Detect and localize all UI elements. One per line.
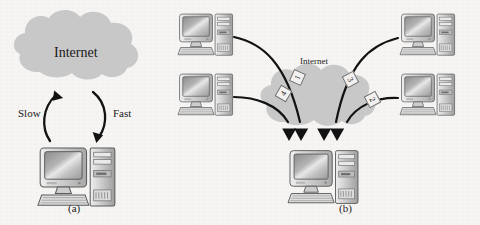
slow-arrow [44,95,56,141]
panel-b-group [178,14,455,203]
computer-a [38,148,115,206]
internet-label-b: Internet [300,57,328,66]
computer-b-bottom-right [400,74,455,115]
computer-b-top-right [400,14,455,55]
connection-arrowhead-1 [294,129,308,141]
slow-label: Slow [18,108,41,119]
fast-arrow [93,92,105,137]
caption-b: (b) [339,203,352,214]
fast-label: Fast [113,108,131,119]
computer-b-top-left [178,14,233,55]
network-diagram-figure: Internet Slow Fast (a) Internet 1 4 3 2 … [0,0,480,225]
connection-arrowhead-4 [282,129,296,141]
internet-label-a: Internet [54,46,98,60]
connection-arrowhead-2 [330,129,344,141]
connection-arrowhead-3 [317,129,331,141]
diagram-canvas [0,0,480,225]
computer-b-bottom-left [178,74,233,115]
caption-a: (a) [68,203,80,214]
computer-b-destination [288,151,358,204]
